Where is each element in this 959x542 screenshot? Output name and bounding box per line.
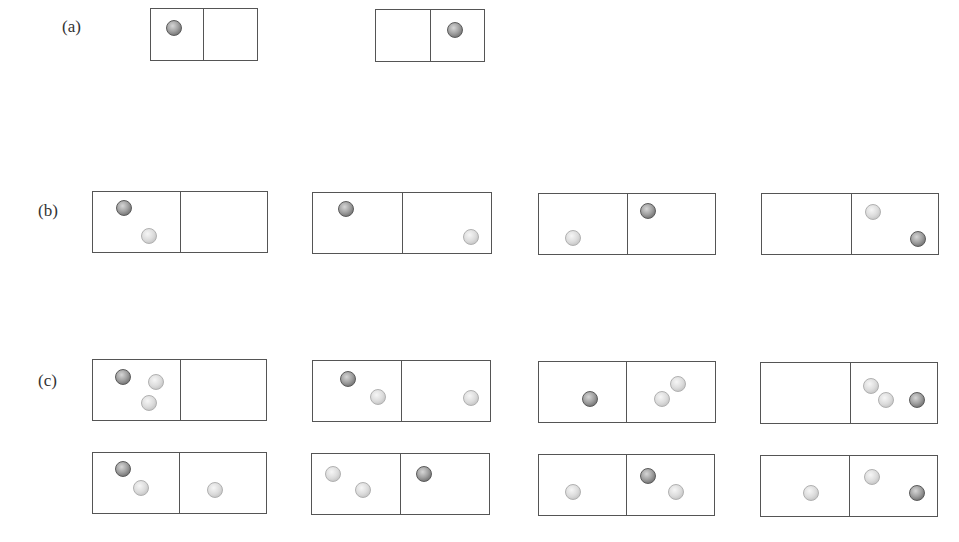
dark-particle-icon	[582, 391, 598, 407]
light-particle-icon	[654, 391, 670, 407]
box-divider	[401, 361, 402, 421]
light-particle-icon	[863, 378, 879, 394]
box-divider	[850, 363, 851, 423]
two-state-box	[311, 453, 490, 515]
light-particle-icon	[565, 484, 581, 500]
two-state-box	[150, 8, 258, 61]
light-particle-icon	[803, 485, 819, 501]
box-divider	[180, 192, 181, 252]
dark-particle-icon	[909, 392, 925, 408]
dark-particle-icon	[338, 201, 354, 217]
dark-particle-icon	[910, 231, 926, 247]
box-divider	[626, 362, 627, 422]
dark-particle-icon	[115, 461, 131, 477]
box-divider	[402, 193, 403, 253]
light-particle-icon	[565, 230, 581, 246]
two-state-box	[761, 193, 939, 255]
light-particle-icon	[463, 390, 479, 406]
light-particle-icon	[670, 376, 686, 392]
two-state-box	[538, 361, 716, 423]
light-particle-icon	[141, 228, 157, 244]
row-label: (a)	[62, 17, 81, 37]
dark-particle-icon	[640, 203, 656, 219]
two-state-box	[92, 359, 267, 421]
light-particle-icon	[148, 374, 164, 390]
dark-particle-icon	[340, 371, 356, 387]
two-state-box	[538, 454, 715, 516]
two-state-box	[312, 360, 491, 422]
light-particle-icon	[141, 395, 157, 411]
row-label: (c)	[38, 371, 57, 391]
light-particle-icon	[325, 466, 341, 482]
light-particle-icon	[864, 469, 880, 485]
box-divider	[849, 456, 850, 516]
two-state-box	[92, 191, 268, 253]
box-divider	[203, 9, 204, 60]
light-particle-icon	[355, 482, 371, 498]
box-divider	[851, 194, 852, 254]
box-divider	[430, 10, 431, 61]
light-particle-icon	[463, 229, 479, 245]
light-particle-icon	[865, 204, 881, 220]
two-state-box	[538, 193, 716, 255]
light-particle-icon	[878, 392, 894, 408]
dark-particle-icon	[640, 468, 656, 484]
dark-particle-icon	[416, 466, 432, 482]
two-state-box	[375, 9, 485, 62]
box-divider	[180, 360, 181, 420]
light-particle-icon	[133, 480, 149, 496]
box-divider	[179, 453, 180, 513]
row-label: (b)	[38, 201, 58, 221]
light-particle-icon	[370, 389, 386, 405]
dark-particle-icon	[447, 22, 463, 38]
box-divider	[627, 194, 628, 254]
two-state-box	[312, 192, 492, 254]
dark-particle-icon	[116, 200, 132, 216]
dark-particle-icon	[166, 20, 182, 36]
light-particle-icon	[207, 482, 223, 498]
dark-particle-icon	[909, 485, 925, 501]
dark-particle-icon	[115, 369, 131, 385]
box-divider	[626, 455, 627, 515]
light-particle-icon	[668, 484, 684, 500]
box-divider	[400, 454, 401, 514]
